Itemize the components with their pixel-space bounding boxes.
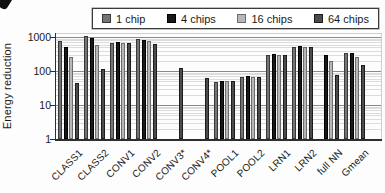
y-tick-label: 1000 bbox=[15, 31, 51, 43]
legend-item: 4 chips bbox=[167, 13, 216, 25]
bar bbox=[127, 43, 131, 140]
bar bbox=[64, 47, 68, 139]
bar bbox=[355, 57, 359, 139]
plot-right-border bbox=[381, 33, 382, 139]
bar bbox=[214, 82, 218, 140]
bar bbox=[153, 44, 157, 139]
legend-swatch-icon bbox=[102, 14, 111, 23]
legend-swatch-icon bbox=[167, 14, 176, 23]
y-axis-line bbox=[55, 33, 56, 139]
legend-item: 64 chips bbox=[314, 13, 369, 25]
bar bbox=[283, 55, 287, 140]
bar bbox=[90, 38, 94, 139]
minor-gridline bbox=[55, 42, 381, 43]
minor-gridline bbox=[55, 47, 381, 48]
bar bbox=[69, 57, 73, 139]
y-tick-mark bbox=[50, 105, 55, 106]
y-tick-label: 100 bbox=[15, 65, 51, 77]
minor-gridline bbox=[55, 51, 381, 52]
bar bbox=[277, 55, 281, 139]
bar bbox=[84, 36, 88, 139]
y-axis-title: Energy reduction bbox=[1, 21, 15, 151]
bar bbox=[251, 77, 255, 139]
bar bbox=[75, 83, 79, 139]
legend-label: 4 chips bbox=[181, 13, 216, 25]
x-axis-line bbox=[55, 139, 382, 141]
bar bbox=[95, 45, 99, 140]
bar bbox=[292, 47, 296, 139]
bar bbox=[309, 47, 313, 140]
y-tick-label: 10 bbox=[15, 99, 51, 111]
plot-top-border bbox=[55, 33, 381, 34]
bar bbox=[231, 81, 235, 139]
y-tick-mark bbox=[50, 71, 55, 72]
y-tick-label: 1 bbox=[15, 133, 51, 145]
legend-label: 16 chips bbox=[251, 13, 292, 25]
bar bbox=[272, 54, 276, 139]
bar bbox=[246, 76, 250, 139]
bar bbox=[142, 40, 146, 139]
bar bbox=[121, 43, 125, 139]
major-gridline bbox=[55, 37, 381, 38]
bar bbox=[298, 46, 302, 139]
minor-gridline bbox=[55, 45, 381, 46]
legend-item: 16 chips bbox=[237, 13, 292, 25]
bar bbox=[335, 75, 339, 139]
bar bbox=[110, 43, 114, 140]
bar bbox=[179, 68, 183, 139]
legend-swatch-icon bbox=[237, 14, 246, 23]
bar bbox=[350, 53, 354, 140]
bar bbox=[266, 55, 270, 139]
bar bbox=[101, 69, 105, 139]
legend-item: 1 chip bbox=[102, 13, 145, 25]
bar bbox=[361, 65, 365, 139]
y-tick-mark bbox=[50, 139, 55, 140]
bar bbox=[136, 39, 140, 139]
bar bbox=[240, 77, 244, 139]
bar bbox=[344, 53, 348, 139]
legend-label: 64 chips bbox=[328, 13, 369, 25]
bar bbox=[205, 78, 209, 139]
legend-label: 1 chip bbox=[116, 13, 145, 25]
bar bbox=[257, 77, 261, 139]
bar bbox=[329, 61, 333, 139]
legend-swatch-icon bbox=[314, 14, 323, 23]
bar bbox=[116, 42, 120, 139]
bar bbox=[303, 47, 307, 139]
bar bbox=[58, 41, 62, 140]
figure: 1 chip4 chips16 chips64 chips Energy red… bbox=[0, 0, 385, 193]
bar bbox=[147, 41, 151, 139]
scan-mark bbox=[0, 0, 14, 11]
bar bbox=[324, 55, 328, 139]
bar bbox=[220, 81, 224, 139]
y-tick-mark bbox=[50, 37, 55, 38]
minor-gridline bbox=[55, 39, 381, 40]
bar bbox=[225, 81, 229, 139]
minor-gridline bbox=[55, 40, 381, 41]
minor-gridline bbox=[55, 55, 381, 56]
legend: 1 chip4 chips16 chips64 chips bbox=[92, 8, 379, 29]
